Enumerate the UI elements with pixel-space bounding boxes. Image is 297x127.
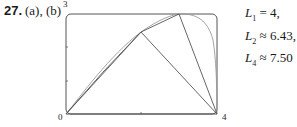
- result-rel: ≈: [259, 50, 266, 65]
- result-value: 6.43,: [270, 28, 296, 43]
- result-sub: 4: [252, 59, 256, 68]
- result-rel: =: [259, 5, 266, 20]
- result-l2: L2 ≈ 6.43,: [245, 27, 296, 50]
- plot-frame: [66, 14, 217, 114]
- result-value: 4,: [270, 5, 280, 20]
- results-list: L1 = 4, L2 ≈ 6.43, L4 ≈ 7.50: [245, 4, 296, 72]
- result-sub: 2: [252, 36, 256, 45]
- result-l4: L4 ≈ 7.50: [245, 49, 296, 72]
- result-sub: 1: [252, 14, 256, 23]
- curve: [66, 14, 217, 114]
- l4-polyline: [66, 14, 217, 114]
- result-value: 7.50: [270, 50, 293, 65]
- result-rel: ≈: [259, 28, 266, 43]
- result-l1: L1 = 4,: [245, 4, 296, 27]
- l2-polyline: [66, 32, 217, 114]
